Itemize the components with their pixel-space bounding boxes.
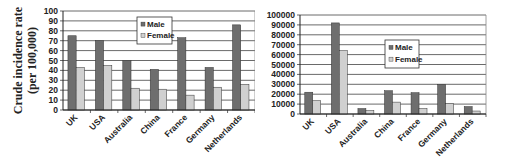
- y-axis-title: Crude incidence rate: [11, 6, 25, 114]
- x-category-label: UK: [300, 116, 316, 132]
- y-tick-label: 10000: [271, 99, 295, 109]
- bar-female-france: [419, 109, 427, 114]
- y-axis-title: (per 100,000): [25, 27, 39, 94]
- x-category-label: USA: [87, 112, 107, 132]
- bar-male-germany: [438, 84, 446, 114]
- y-tick-label: 0: [290, 109, 295, 119]
- bar-female-uk: [76, 67, 84, 110]
- legend-label-male: Male: [147, 20, 165, 29]
- bar-male-china: [150, 69, 158, 110]
- y-tick-label: 10: [49, 95, 59, 105]
- y-tick-label: 40000: [271, 69, 295, 79]
- bar-male-netherlands: [464, 107, 472, 114]
- x-category-label: Australia: [336, 116, 369, 149]
- bar-female-germany: [213, 87, 221, 110]
- bar-female-australia: [366, 111, 374, 114]
- bar-female-france: [186, 95, 194, 110]
- y-tick-label: 70: [49, 36, 59, 46]
- bar-male-uk: [305, 92, 313, 114]
- chart-case-counts: 0100002000030000400005000060000700008000…: [255, 0, 505, 161]
- y-tick-label: 80000: [271, 30, 295, 40]
- bar-female-australia: [131, 88, 139, 110]
- legend-swatch-male: [141, 22, 145, 26]
- y-tick-label: 20: [49, 85, 59, 95]
- x-category-label: UK: [64, 112, 80, 128]
- y-tick-label: 80: [49, 26, 59, 36]
- legend: MaleFemale: [137, 17, 175, 44]
- bar-male-china: [384, 91, 392, 114]
- bar-male-australia: [358, 109, 366, 114]
- x-category-label: USA: [323, 116, 343, 136]
- y-tick-label: 50: [49, 56, 59, 66]
- y-tick-label: 30000: [271, 79, 295, 89]
- legend-label-male: Male: [395, 43, 413, 52]
- bar-male-uk: [68, 36, 76, 110]
- y-tick-label: 90: [49, 16, 59, 26]
- bar-male-usa: [331, 23, 339, 114]
- bar-male-australia: [123, 61, 131, 111]
- y-tick-label: 0: [53, 105, 58, 115]
- y-tick-label: 60: [49, 46, 59, 56]
- legend-swatch-female: [389, 57, 393, 61]
- bar-female-usa: [339, 51, 347, 114]
- y-tick-label: 50000: [271, 60, 295, 70]
- legend-swatch-female: [141, 33, 145, 37]
- y-tick-label: 100000: [267, 10, 296, 20]
- x-category-label: France: [162, 112, 189, 139]
- bar-male-germany: [205, 67, 213, 110]
- x-category-label: China: [138, 112, 162, 136]
- bar-chart-left: 0102030405060708090100UKUSAAustraliaChin…: [0, 0, 255, 161]
- bar-female-germany: [446, 104, 454, 114]
- x-category-label: Australia: [102, 112, 135, 145]
- legend-label-female: Female: [395, 55, 423, 64]
- bar-female-china: [158, 89, 166, 110]
- bar-female-usa: [104, 65, 112, 110]
- bar-male-netherlands: [233, 25, 241, 110]
- y-tick-label: 70000: [271, 40, 295, 50]
- legend-swatch-male: [389, 45, 393, 49]
- y-tick-label: 30: [49, 75, 59, 85]
- bar-female-netherlands: [241, 84, 249, 110]
- y-tick-label: 60000: [271, 50, 295, 60]
- legend: MaleFemale: [385, 40, 423, 68]
- bar-chart-right: 0100002000030000400005000060000700008000…: [255, 0, 505, 161]
- y-tick-label: 90000: [271, 20, 295, 30]
- chart-incidence-rate: 0102030405060708090100UKUSAAustraliaChin…: [0, 0, 255, 161]
- bar-male-france: [178, 38, 186, 110]
- legend-label-female: Female: [147, 31, 175, 40]
- bar-male-usa: [95, 41, 103, 110]
- y-tick-label: 100: [44, 6, 58, 16]
- bar-female-china: [392, 102, 400, 114]
- bar-female-uk: [313, 101, 321, 114]
- x-category-label: China: [372, 116, 396, 140]
- bar-male-france: [411, 93, 419, 114]
- y-tick-label: 40: [49, 65, 59, 75]
- y-tick-label: 20000: [271, 89, 295, 99]
